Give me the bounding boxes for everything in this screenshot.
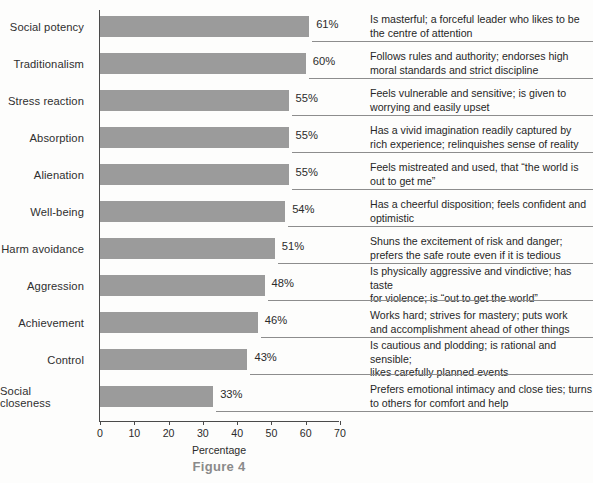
x-axis-tick-label: 40 [231,427,243,439]
chart-row: Well-being54%Has a cheerful disposition;… [0,193,593,230]
chart-row: Social closeness33%Prefers emotional int… [0,378,593,415]
bar-zone: 51% [100,230,340,267]
description-line: to others for comfort and help [370,397,593,410]
category-label: Absorption [0,119,92,156]
x-axis-tick [237,421,238,425]
trait-description: Feels vulnerable and sensitive; is given… [370,82,593,119]
x-axis-tick [203,421,204,425]
x-axis-tick-label: 20 [163,427,175,439]
row-separator [292,189,593,190]
y-axis-line [99,10,100,422]
description-line: rich experience; relinquishes sense of r… [370,138,593,151]
trait-description: Is physically aggressive and vindictive;… [370,267,593,304]
chart-row: Absorption55%Has a vivid imagination rea… [0,119,593,156]
bar-zone: 54% [100,193,340,230]
trait-description: Shuns the excitement of risk and danger;… [370,230,593,267]
description-line: and accomplishment ahead of other things [370,323,593,336]
row-separator [288,226,593,227]
description-line: prefers the safe route even if it is ted… [370,249,593,262]
description-line: optimistic [370,212,593,225]
x-axis-tick [306,421,307,425]
chart-row: Traditionalism60%Follows rules and autho… [0,45,593,82]
trait-description: Feels mistreated and used, that “the wor… [370,156,593,193]
bar [100,127,289,148]
description-line: Is cautious and plodding; is rational an… [370,339,593,366]
description-line: Is masterful; a forceful leader who like… [370,13,593,26]
bar-zone: 43% [100,341,340,378]
x-axis-tick-label: 60 [300,427,312,439]
bar [100,164,289,185]
bar-zone: 55% [100,119,340,156]
bar-value-label: 54% [292,203,314,215]
trait-description: Works hard; strives for mastery; puts wo… [370,304,593,341]
row-separator [261,337,593,338]
bar-zone: 61% [100,8,340,45]
x-axis-tick [169,421,170,425]
bar-value-label: 51% [282,240,304,252]
bar-value-label: 55% [296,92,318,104]
bar [100,386,213,407]
description-line: Shuns the excitement of risk and danger; [370,235,593,248]
x-axis-tick-label: 70 [334,427,346,439]
bar-zone: 60% [100,45,340,82]
bar-value-label: 61% [316,18,338,30]
description-line: Feels mistreated and used, that “the wor… [370,161,593,174]
description-line: Feels vulnerable and sensitive; is given… [370,87,593,100]
bar-zone: 55% [100,82,340,119]
figure-caption: Figure 4 [99,459,339,474]
bar [100,16,309,37]
bar [100,201,285,222]
category-label: Harm avoidance [0,230,92,267]
bar-zone: 48% [100,267,340,304]
bar [100,349,247,370]
bar-zone: 55% [100,156,340,193]
bar-value-label: 55% [296,129,318,141]
bar-value-label: 46% [265,314,287,326]
x-axis-tick-label: 50 [266,427,278,439]
description-line: Has a cheerful disposition; feels confid… [370,198,593,211]
chart-row: Achievement46%Works hard; strives for ma… [0,304,593,341]
trait-description: Has a cheerful disposition; feels confid… [370,193,593,230]
bar-value-label: 55% [296,166,318,178]
trait-description: Prefers emotional intimacy and close tie… [370,378,593,415]
description-line: Is physically aggressive and vindictive;… [370,265,593,292]
x-axis-tick [271,421,272,425]
bar-value-label: 33% [220,388,242,400]
trait-description: Is masterful; a forceful leader who like… [370,8,593,45]
category-label: Social potency [0,8,92,45]
bar-value-label: 48% [272,277,294,289]
row-separator [278,263,593,264]
row-separator [292,152,593,153]
x-axis-tick [340,421,341,425]
category-label: Stress reaction [0,82,92,119]
category-label: Well-being [0,193,92,230]
chart-row: Alienation55%Feels mistreated and used, … [0,156,593,193]
plot-area: Social potency61%Is masterful; a forcefu… [0,0,593,432]
trait-description: Is cautious and plodding; is rational an… [370,341,593,378]
bar-zone: 33% [100,378,340,415]
category-label: Traditionalism [0,45,92,82]
bar [100,312,258,333]
row-separator [292,115,593,116]
category-label: Achievement [0,304,92,341]
category-label: Alienation [0,156,92,193]
row-separator [216,411,593,412]
description-line: Follows rules and authority; endorses hi… [370,50,593,63]
bar [100,90,289,111]
bar [100,275,265,296]
category-label: Control [0,341,92,378]
chart-row: Aggression48%Is physically aggressive an… [0,267,593,304]
description-line: Has a vivid imagination readily captured… [370,124,593,137]
figure-4-chart: Social potency61%Is masterful; a forcefu… [0,0,593,483]
row-separator [268,300,593,301]
x-axis-tick-label: 30 [197,427,209,439]
x-axis-tick [134,421,135,425]
description-line: Prefers emotional intimacy and close tie… [370,383,593,396]
description-line: out to get me” [370,175,593,188]
row-separator [312,41,593,42]
category-label: Social closeness [0,378,92,415]
description-line: the centre of attention [370,27,593,40]
chart-row: Control43%Is cautious and plodding; is r… [0,341,593,378]
x-axis-tick-label: 0 [97,427,103,439]
bar-value-label: 43% [254,351,276,363]
